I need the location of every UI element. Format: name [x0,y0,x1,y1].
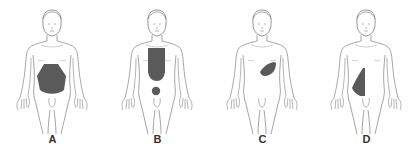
figure-label: D [314,133,419,145]
body-outline-icon [210,0,315,148]
figure-a: A [0,0,105,148]
figure-b: B [105,0,210,148]
figure-label: A [0,133,105,145]
body-outline-icon [0,0,105,148]
shaded-region-epigastric [148,48,165,81]
shaded-region-left-upper-quadrant [260,62,276,76]
shaded-region-umbilical [152,87,160,95]
figure-c: C [210,0,315,148]
shaded-region-right-flank [352,68,365,96]
body-outline-icon [105,0,210,148]
body-outline-icon [314,0,419,148]
shaded-region-lower-abdomen [37,64,66,94]
figure-label: B [105,133,210,145]
figure-d: D [314,0,419,148]
figure-label: C [210,133,315,145]
